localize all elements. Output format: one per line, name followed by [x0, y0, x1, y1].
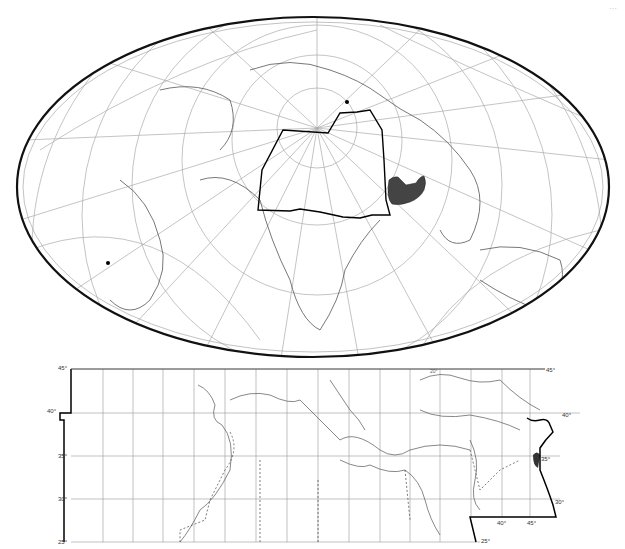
detail-graticule [60, 369, 580, 542]
lon-label-45: 45° [527, 520, 537, 526]
lat-label-35-right: 35° [541, 456, 551, 462]
lat-label-40-left: 40° [47, 408, 57, 414]
lat-label-40-right: 40° [562, 412, 572, 418]
detail-boundary-east [470, 418, 556, 542]
detail-shaded-region [533, 453, 540, 469]
lat-label-25-right: 25° [481, 538, 491, 544]
lat-label-35-left: 35° [58, 453, 68, 459]
lon-label-40: 40° [497, 520, 507, 526]
detail-map: 45° 40° 35° 30° 25° 45° 40° 35° 30° 25° … [0, 0, 625, 549]
lat-label-45-left: 45° [58, 365, 68, 371]
lat-label-45-right: 45° [546, 367, 556, 373]
lat-label-25-left: 25° [58, 539, 68, 545]
lat-label-30-left: 30° [58, 496, 68, 502]
lat-label-30-right: 30° [555, 499, 565, 505]
